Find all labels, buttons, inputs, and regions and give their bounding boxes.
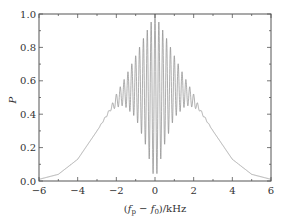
chart: −6−4−20246 0.00.20.40.60.81.0 P (fp − f0… [0, 0, 281, 222]
x-tick-label: 0 [152, 185, 158, 196]
x-tick-label: −4 [70, 185, 85, 196]
x-tick-labels: −6−4−20246 [32, 185, 275, 196]
x-tick-label: 4 [229, 185, 235, 196]
y-tick-label: 0.0 [20, 176, 36, 187]
axis-ticks [39, 14, 271, 181]
x-tick-label: 6 [268, 185, 274, 196]
y-tick-label: 1.0 [20, 9, 36, 20]
x-tick-label: −6 [32, 185, 47, 196]
y-axis-label: P [7, 96, 18, 104]
y-tick-label: 0.6 [20, 75, 36, 86]
plot-frame [39, 14, 271, 181]
y-tick-label: 0.2 [20, 142, 36, 153]
x-tick-label: 2 [190, 185, 196, 196]
y-tick-label: 0.4 [20, 109, 36, 120]
plot-line [39, 14, 271, 179]
y-tick-label: 0.8 [20, 42, 36, 53]
x-axis-label: (fp − f0)/kHz [124, 203, 186, 216]
y-tick-labels: 0.00.20.40.60.81.0 [20, 9, 36, 187]
x-tick-label: −2 [109, 185, 124, 196]
